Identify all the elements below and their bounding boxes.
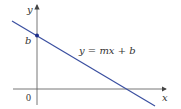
origin-label: 0 <box>26 92 31 103</box>
equation-label: y = mx + b <box>78 45 136 56</box>
graph-canvas: y x 0 b y = mx + b <box>0 0 181 109</box>
y-intercept-point <box>35 34 39 38</box>
function-line <box>12 21 155 106</box>
x-axis-label: x <box>162 92 168 103</box>
y-axis-label: y <box>26 4 33 15</box>
intercept-label: b <box>25 35 31 46</box>
